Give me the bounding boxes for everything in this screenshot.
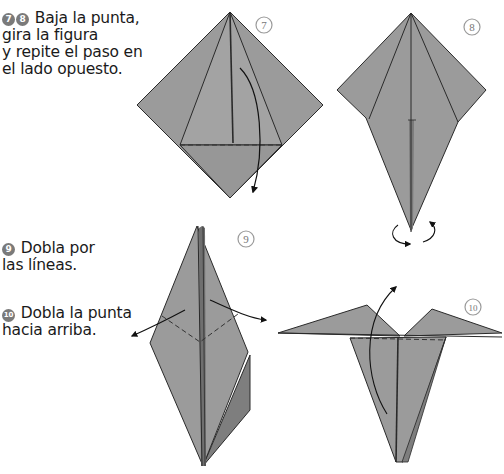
step-number-10: 10 bbox=[465, 299, 481, 315]
diagram-step-8: 8 bbox=[337, 13, 486, 244]
origami-diagrams: 7 8 9 bbox=[0, 0, 504, 474]
step-number-8: 8 bbox=[464, 19, 480, 35]
svg-text:7: 7 bbox=[261, 19, 267, 31]
step-number-7: 7 bbox=[256, 17, 272, 33]
svg-text:10: 10 bbox=[469, 303, 479, 313]
svg-text:9: 9 bbox=[243, 233, 249, 245]
step-number-9: 9 bbox=[238, 231, 254, 247]
diagram-step-7: 7 bbox=[137, 12, 323, 198]
diagram-step-9: 9 bbox=[132, 226, 266, 466]
svg-text:8: 8 bbox=[469, 21, 475, 33]
diagram-step-10: 10 bbox=[278, 287, 502, 462]
